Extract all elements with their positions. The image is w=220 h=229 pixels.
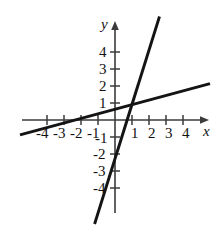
x-tick-label: -2 xyxy=(70,126,83,141)
coordinate-plane xyxy=(0,0,220,229)
x-tick-label: -3 xyxy=(53,126,66,141)
y-tick-label: 1 xyxy=(99,96,107,111)
y-tick-label: 4 xyxy=(99,45,107,60)
y-tick-label: -1 xyxy=(95,131,108,146)
x-tick-label: 4 xyxy=(182,126,190,141)
y-tick-label: -3 xyxy=(93,164,106,179)
y-axis-label: y xyxy=(101,17,108,32)
y-tick-label: -4 xyxy=(93,181,106,196)
y-tick-label: -2 xyxy=(93,147,106,162)
x-tick-label: 1 xyxy=(131,126,139,141)
x-tick-label: 2 xyxy=(148,126,156,141)
y-tick-label: 3 xyxy=(99,62,107,77)
graph-figure: -4 -3 -2 -1 1 2 3 4 4 3 2 1 -1 -2 -3 -4 … xyxy=(0,0,220,229)
x-tick-label: 3 xyxy=(165,126,173,141)
x-tick-label: -4 xyxy=(36,126,49,141)
x-axis-label: x xyxy=(203,124,210,139)
y-axis xyxy=(111,21,119,213)
y-tick-label: 2 xyxy=(99,79,107,94)
